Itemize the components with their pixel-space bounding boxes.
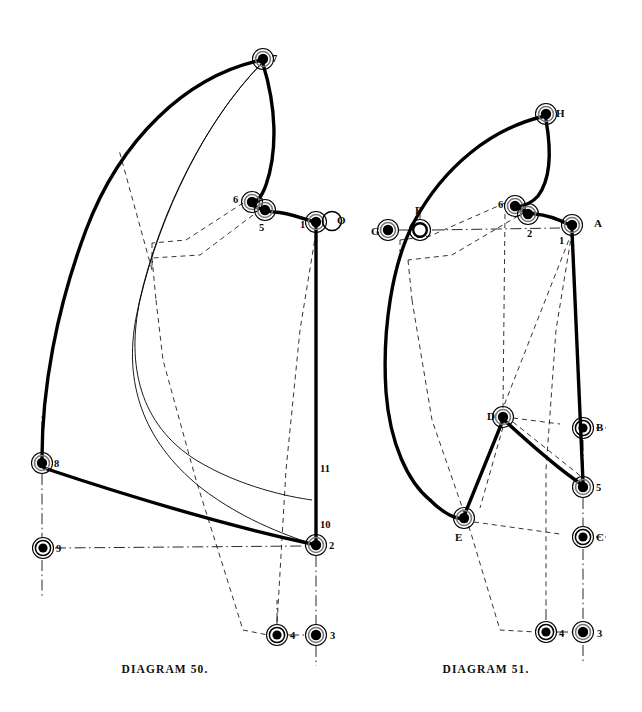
label-left-5: 5 bbox=[259, 222, 264, 233]
thin-curves-left bbox=[132, 62, 312, 544]
label-left-10: 10 bbox=[320, 519, 331, 530]
label-left-11: 11 bbox=[320, 463, 330, 474]
label-right-2: 2 bbox=[527, 228, 532, 239]
joint-5[interactable] bbox=[255, 200, 276, 221]
label-right-b: B bbox=[596, 422, 603, 433]
label-right-d: D bbox=[487, 411, 495, 422]
diagram-50-geometry bbox=[42, 60, 316, 666]
joint-7[interactable] bbox=[253, 49, 274, 70]
diagram-plate: 7 6 5 1 O 8 9 11 10 2 4 3 H G F 6 2 1 A … bbox=[0, 0, 642, 712]
joint-c[interactable] bbox=[573, 527, 594, 548]
caption-diagram-51: DIAGRAM 51. bbox=[330, 663, 642, 675]
label-left-6: 6 bbox=[233, 194, 238, 205]
dashed-construction-left bbox=[119, 150, 316, 635]
joint-8[interactable] bbox=[32, 453, 53, 474]
diagram-51-geometry bbox=[385, 116, 606, 664]
plate-vector-canvas bbox=[0, 0, 642, 712]
label-right-a: A bbox=[594, 218, 602, 229]
joint-markers bbox=[32, 49, 594, 646]
caption-diagram-50: DIAGRAM 50. bbox=[0, 663, 330, 675]
joint-a[interactable] bbox=[562, 215, 583, 236]
label-left-7: 7 bbox=[272, 53, 277, 64]
label-right-g: G bbox=[371, 226, 380, 237]
label-left-8: 8 bbox=[54, 458, 59, 469]
main-profile-right bbox=[385, 116, 583, 519]
joint-g[interactable] bbox=[378, 220, 399, 241]
joint-6-right[interactable] bbox=[505, 196, 526, 217]
label-left-9: 9 bbox=[56, 543, 61, 554]
joint-3-left[interactable] bbox=[306, 625, 327, 646]
label-right-5: 5 bbox=[596, 482, 601, 493]
joint-b[interactable] bbox=[573, 418, 594, 439]
label-right-4: 4 bbox=[559, 628, 564, 639]
label-left-1: 1 bbox=[300, 219, 305, 230]
joint-5-right[interactable] bbox=[573, 477, 594, 498]
main-profile-left bbox=[42, 60, 316, 544]
joint-2[interactable] bbox=[306, 535, 327, 556]
joint-3-right[interactable] bbox=[573, 622, 594, 643]
label-right-f: F bbox=[415, 205, 422, 216]
joint-4-right[interactable] bbox=[536, 622, 557, 643]
joint-d[interactable] bbox=[493, 407, 514, 428]
label-right-c: C bbox=[596, 532, 604, 543]
label-left-3: 3 bbox=[330, 630, 335, 641]
label-right-h: H bbox=[556, 108, 565, 119]
joint-e[interactable] bbox=[454, 508, 475, 529]
label-left-o: O bbox=[337, 215, 346, 226]
joint-h[interactable] bbox=[536, 104, 557, 125]
joint-f[interactable] bbox=[410, 220, 431, 241]
label-right-e: E bbox=[455, 532, 462, 543]
joint-6[interactable] bbox=[242, 192, 263, 213]
label-left-2: 2 bbox=[329, 540, 334, 551]
joint-4-left[interactable] bbox=[267, 625, 288, 646]
joint-9[interactable] bbox=[33, 538, 54, 559]
label-left-4: 4 bbox=[290, 630, 295, 641]
label-right-6: 6 bbox=[498, 199, 503, 210]
label-right-1: 1 bbox=[559, 235, 564, 246]
joint-2-right[interactable] bbox=[518, 204, 539, 225]
label-right-3: 3 bbox=[597, 628, 602, 639]
centerlines-left bbox=[42, 416, 316, 666]
